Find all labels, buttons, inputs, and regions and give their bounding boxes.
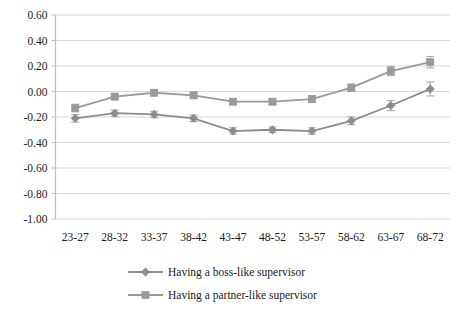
x-axis-tick-label: 23-27 [62, 231, 89, 243]
data-point-marker-diamond [387, 101, 395, 109]
data-point-marker-square [151, 89, 158, 96]
data-point-marker-square [308, 96, 315, 103]
y-axis-line [52, 15, 56, 219]
data-point-marker-square [269, 98, 276, 105]
x-axis-tick-label: 63-67 [377, 231, 404, 243]
legend-item-1[interactable]: Having a boss-like supervisor [128, 266, 305, 279]
x-axis-tick-label: 48-52 [259, 231, 286, 243]
data-point-marker-square [387, 68, 394, 75]
data-point-marker-square [72, 104, 79, 111]
data-point-marker-diamond [347, 117, 355, 125]
x-axis-tick-label: 68-72 [417, 231, 444, 243]
y-axis-tick-label: 0.20 [27, 60, 47, 72]
x-axis-tick-labels: 23-2728-3233-3738-4243-4748-5253-5758-62… [62, 231, 444, 243]
y-axis-tick-label: -0.20 [24, 111, 48, 123]
data-point-marker-diamond [71, 114, 79, 122]
series-line [75, 62, 430, 108]
data-point-marker-square [348, 84, 355, 91]
series-2 [71, 56, 434, 111]
data-point-marker-square [111, 93, 118, 100]
chart-container: 0.600.400.200.00-0.20-0.40-0.60-0.80-1.0… [0, 0, 457, 317]
y-axis-tick-label: 0.00 [27, 86, 47, 98]
legend-label: Having a boss-like supervisor [168, 266, 305, 279]
legend-item-2[interactable]: Having a partner-like supervisor [128, 289, 317, 302]
x-axis-tick-label: 28-32 [101, 231, 128, 243]
x-axis-tick-label: 43-47 [220, 231, 247, 243]
chart-legend: Having a boss-like supervisorHaving a pa… [128, 266, 317, 302]
line-chart: 0.600.400.200.00-0.20-0.40-0.60-0.80-1.0… [0, 0, 457, 317]
y-axis-tick-label: -0.80 [24, 188, 48, 200]
data-point-marker-square [427, 59, 434, 66]
series-lines [71, 56, 434, 135]
data-point-marker-diamond [141, 268, 149, 276]
y-axis-tick-labels: 0.600.400.200.00-0.20-0.40-0.60-0.80-1.0… [24, 9, 48, 225]
data-point-marker-square [229, 98, 236, 105]
y-axis-tick-label: 0.60 [27, 9, 47, 21]
data-point-marker-square [142, 291, 149, 298]
y-axis-tick-label: 0.40 [27, 35, 47, 47]
x-axis-tick-label: 38-42 [180, 231, 207, 243]
y-axis-tick-label: -1.00 [24, 213, 48, 225]
legend-label: Having a partner-like supervisor [168, 289, 317, 302]
x-axis-tick-label: 33-37 [141, 231, 168, 243]
series-1 [71, 82, 434, 135]
x-axis-tick-label: 58-62 [338, 231, 365, 243]
data-point-marker-square [190, 92, 197, 99]
y-axis-tick-label: -0.40 [24, 137, 48, 149]
y-axis-tick-label: -0.60 [24, 162, 48, 174]
x-axis-tick-label: 53-57 [299, 231, 326, 243]
